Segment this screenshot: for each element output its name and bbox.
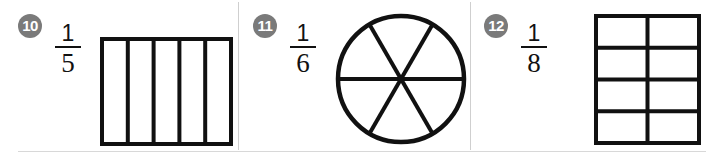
- bottom-rule: [18, 151, 706, 152]
- fraction-numerator: 1: [53, 22, 83, 44]
- problem-10: 10 1 5: [0, 0, 238, 159]
- fraction-denominator: 5: [53, 51, 83, 75]
- fraction-one-sixth: 1 6: [288, 22, 318, 75]
- fraction-denominator: 6: [288, 51, 318, 75]
- problem-12: 12 1 8: [471, 0, 714, 159]
- fraction-numerator: 1: [519, 22, 549, 44]
- rectangle-eighths-icon: [594, 14, 701, 145]
- fraction-denominator: 8: [519, 51, 549, 75]
- problem-11: 11 1 6: [239, 0, 470, 159]
- problem-number-badge: 10: [18, 14, 42, 38]
- problem-number-badge: 11: [253, 14, 277, 38]
- fraction-one-eighth: 1 8: [519, 22, 549, 75]
- fraction-numerator: 1: [288, 22, 318, 44]
- circle-sixths-icon: [334, 12, 468, 146]
- rectangle-fifths-icon: [100, 37, 233, 146]
- fraction-worksheet-strip: 10 1 5 11 1 6: [0, 0, 714, 159]
- fraction-one-fifth: 1 5: [53, 22, 83, 75]
- problem-number-badge: 12: [484, 14, 508, 38]
